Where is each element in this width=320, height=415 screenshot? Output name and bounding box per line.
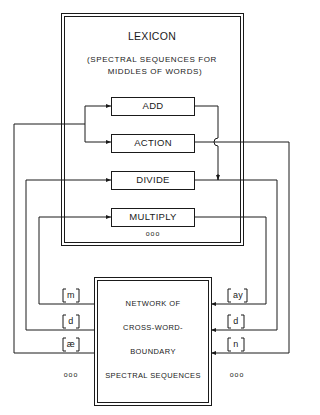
left-phone-d: [d]d — [68, 316, 73, 326]
right-phone-d: [d]d — [233, 316, 238, 326]
left-phone-ae: [æ]æ — [67, 339, 75, 349]
connector-m-to-multiply — [39, 217, 111, 304]
lexicon-subtitle-line1: (SPECTRAL SEQUENCES FOR — [87, 55, 217, 64]
left-ellipsis: ooo — [64, 371, 79, 378]
word-label-action: ACTION — [134, 137, 172, 148]
right-phone-n: [n]n — [233, 339, 238, 349]
word-label-add: ADD — [143, 100, 164, 111]
connector-divide-to-d — [194, 180, 277, 330]
network-box-outer — [95, 278, 212, 406]
word-label-divide: DIVIDE — [136, 174, 169, 185]
network-line2: CROSS-WORD- — [123, 323, 183, 332]
lexicon-ellipsis: ooo — [146, 230, 161, 237]
right-phone-ay: [ay]ay — [233, 290, 243, 300]
network-line1: NETWORK OF — [126, 299, 181, 308]
connector-add-output — [194, 106, 218, 180]
lexicon-subtitle-line2: MIDDLES OF WORDS) — [108, 67, 203, 76]
left-phone-m: [m]m — [67, 290, 75, 300]
network-line4: SPECTRAL SEQUENCES — [105, 371, 201, 380]
right-ellipsis: ooo — [230, 371, 245, 378]
network-line3: BOUNDARY — [130, 347, 176, 356]
lexicon-title: LEXICON — [128, 30, 176, 42]
connector-multiply-to-ay — [194, 217, 266, 304]
word-label-multiply: MULTIPLY — [129, 211, 176, 222]
